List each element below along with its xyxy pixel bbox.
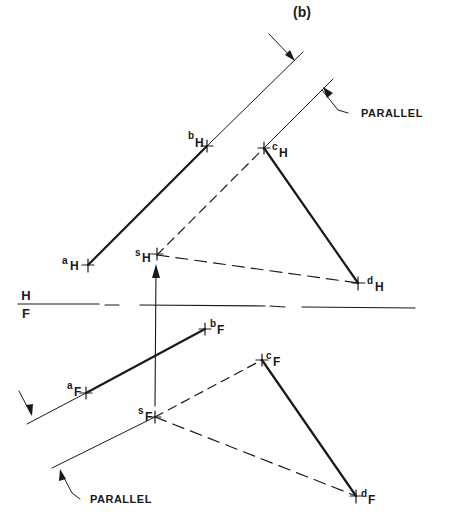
line-cs-top-extension [264, 79, 333, 148]
label-dH-letter: d [367, 275, 373, 286]
line-sd-front-dashed [155, 417, 356, 496]
label-dF-letter: d [361, 488, 367, 499]
line-cd-front [262, 360, 356, 496]
label-cH-letter: c [272, 141, 278, 152]
arrowhead-projector-s [152, 264, 160, 278]
fold-line [18, 304, 415, 308]
line-sd-top-dashed [157, 255, 358, 283]
label-sF-letter: s [138, 405, 144, 416]
label-aF-view: F [74, 385, 81, 399]
figure-title: (b) [293, 4, 311, 20]
line-cs-front-dashed [155, 360, 262, 417]
label-aH-letter: a [62, 255, 68, 266]
label-bH-view: H [195, 136, 204, 150]
label-aH-view: H [70, 259, 79, 273]
line-cs-front-extension [52, 417, 155, 468]
label-bF-view: F [217, 323, 224, 337]
label-cH-view: H [279, 146, 288, 160]
label-aF-letter: a [67, 380, 73, 391]
line-ab-front [86, 329, 205, 393]
parallel-label-bottom: PARALLEL [90, 493, 152, 505]
fold-label-F: F [22, 306, 30, 321]
label-dH-view: H [375, 280, 384, 294]
fold-label-H: H [21, 288, 30, 303]
label-cF-letter: c [266, 350, 272, 361]
label-cF-view: F [273, 355, 280, 369]
arrowhead-bottom-left [26, 404, 33, 416]
label-bH-letter: b [188, 130, 194, 141]
label-sH-view: H [142, 251, 151, 265]
line-cd-top [264, 148, 358, 283]
label-bF-letter: b [210, 318, 216, 329]
point-mark-aF [80, 387, 92, 399]
orthographic-drawing: (b) PARALLEL PARALLEL H F a H b H c H d … [0, 0, 454, 532]
projector-s [155, 268, 156, 406]
parallel-label-top: PARALLEL [361, 107, 423, 119]
line-ab-top-extension [207, 52, 303, 146]
label-sH-letter: s [135, 247, 141, 258]
label-sF-view: F [145, 410, 152, 424]
line-cs-top-dashed [157, 148, 264, 255]
line-ab-top [88, 146, 207, 265]
label-dF-view: F [368, 493, 375, 507]
point-mark-sH [151, 248, 163, 260]
arrowhead-parallel-bottom [59, 469, 66, 481]
